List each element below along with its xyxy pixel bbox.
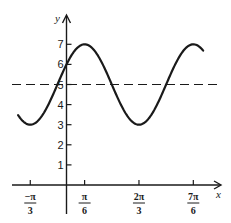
- x-tick-label: 2π3: [133, 191, 145, 216]
- svg-text:7π: 7π: [188, 191, 199, 202]
- x-tick-label: 7π6: [187, 191, 199, 216]
- y-axis-label: y: [54, 12, 60, 24]
- y-tick-label: 3: [57, 119, 63, 131]
- sine-chart: 1234567 −π3π62π37π6 y x: [0, 0, 231, 223]
- x-axis-label: x: [215, 188, 221, 200]
- y-tick-label: 4: [57, 99, 63, 111]
- svg-text:3: 3: [136, 205, 141, 216]
- x-tick-label: −π3: [24, 191, 36, 216]
- y-tick-label: 1: [57, 159, 63, 171]
- svg-text:2π: 2π: [134, 191, 145, 202]
- svg-text:6: 6: [191, 205, 196, 216]
- svg-text:6: 6: [82, 205, 87, 216]
- svg-text:π: π: [82, 191, 88, 202]
- svg-text:−π: −π: [25, 191, 37, 202]
- svg-text:3: 3: [28, 205, 33, 216]
- y-tick-label: 2: [57, 139, 63, 151]
- y-tick-label: 7: [57, 38, 63, 50]
- y-tick-label: 6: [57, 58, 63, 70]
- x-tick-label: π6: [79, 191, 91, 216]
